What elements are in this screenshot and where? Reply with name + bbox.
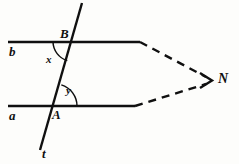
arrowhead-n-icon	[200, 73, 212, 88]
geometry-figure: b a B A x y t N	[0, 0, 239, 164]
dashed-line-upper	[140, 42, 206, 77]
dashed-line-lower	[135, 84, 206, 106]
label-point-a: A	[52, 108, 61, 121]
label-angle-y: y	[66, 85, 71, 96]
label-line-b: b	[9, 45, 16, 58]
label-transversal-t: t	[42, 147, 46, 160]
figure-canvas	[0, 0, 239, 164]
label-point-n: N	[218, 72, 228, 86]
label-point-b: B	[60, 27, 69, 40]
label-angle-x: x	[46, 54, 52, 65]
label-line-a: a	[9, 109, 16, 122]
